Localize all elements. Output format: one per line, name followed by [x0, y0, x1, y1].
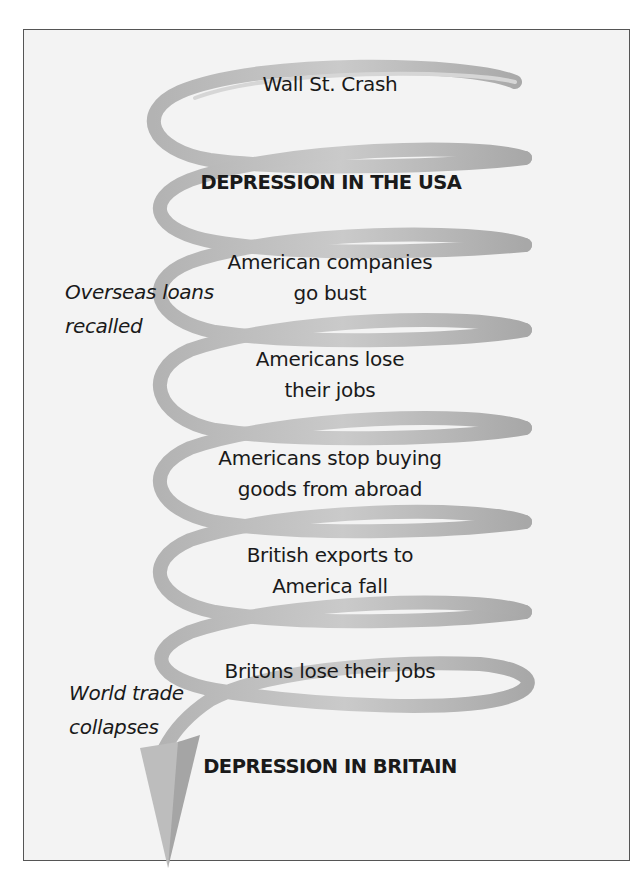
step-text-line-1: British exports to — [247, 540, 414, 571]
note-text-line-2: collapses — [69, 710, 184, 744]
step-text: Britons lose their jobs — [225, 656, 436, 687]
note-text-line-1: Overseas loans — [65, 275, 214, 309]
step-text-line-1: Americans lose — [256, 344, 404, 375]
note-world-trade-collapses: World trade collapses — [69, 676, 184, 744]
step-text-line-2: goods from abroad — [218, 474, 441, 505]
step-americans-lose-jobs: Americans lose their jobs — [256, 344, 404, 406]
step-text-line-2: America fall — [247, 571, 414, 602]
step-text-line-1: American companies — [228, 247, 433, 278]
downward-spiral-arrow-icon — [0, 0, 637, 876]
step-british-exports-fall: British exports to America fall — [247, 540, 414, 602]
step-depression-usa: DEPRESSION IN THE USA — [201, 167, 462, 198]
step-american-companies-go-bust: American companies go bust — [228, 247, 433, 309]
note-overseas-loans-recalled: Overseas loans recalled — [65, 275, 214, 343]
step-americans-stop-buying: Americans stop buying goods from abroad — [218, 443, 441, 505]
step-text-line-2: their jobs — [256, 375, 404, 406]
step-wall-st-crash: Wall St. Crash — [263, 69, 398, 100]
step-britons-lose-jobs: Britons lose their jobs — [225, 656, 436, 687]
note-text-line-1: World trade — [69, 676, 184, 710]
step-text-line-2: go bust — [228, 278, 433, 309]
step-text: Wall St. Crash — [263, 69, 398, 100]
step-text-line-1: Americans stop buying — [218, 443, 441, 474]
note-text-line-2: recalled — [65, 309, 214, 343]
step-text: DEPRESSION IN THE USA — [201, 167, 462, 198]
step-depression-britain: DEPRESSION IN BRITAIN — [203, 751, 457, 782]
step-text: DEPRESSION IN BRITAIN — [203, 751, 457, 782]
